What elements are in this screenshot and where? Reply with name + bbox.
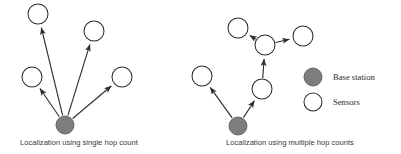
sensor-node-m5 bbox=[192, 66, 212, 86]
link-bs2-to-m4 bbox=[243, 101, 254, 118]
panel-caption-multi-hop: Localization using multiple hop counts bbox=[226, 138, 354, 147]
nodes-layer bbox=[22, 4, 313, 135]
figure-container: Localization using single hop countLocal… bbox=[0, 0, 401, 154]
link-hub-to-m1 bbox=[250, 35, 256, 39]
sensor-node-s2 bbox=[84, 21, 104, 41]
sensor-node-m4 bbox=[252, 79, 272, 99]
legend-marker-sensors bbox=[304, 93, 322, 111]
panel-caption-single-hop: Localization using single hop count bbox=[20, 138, 139, 147]
links-layer bbox=[40, 28, 289, 119]
sensor-node-s3 bbox=[22, 67, 42, 87]
sensor-node-m1 bbox=[228, 18, 248, 38]
link-bs-to-s3 bbox=[40, 89, 59, 117]
sensor-node-s1 bbox=[28, 4, 48, 24]
captions-layer: Localization using single hop countLocal… bbox=[20, 138, 354, 147]
network-topology-figure: Localization using single hop countLocal… bbox=[0, 0, 401, 154]
base-station-node-bs2 bbox=[229, 117, 247, 135]
link-bs-to-s2 bbox=[68, 44, 90, 115]
link-bs-to-s4 bbox=[73, 86, 112, 119]
link-m4-to-hub bbox=[263, 59, 264, 78]
legend-layer: Base stationSensors bbox=[304, 68, 375, 111]
legend-label-base-station: Base station bbox=[333, 72, 375, 82]
legend-marker-base-station bbox=[304, 68, 322, 86]
sensor-node-hub bbox=[255, 35, 275, 55]
sensor-node-s4 bbox=[112, 67, 132, 87]
base-station-node-bs bbox=[56, 116, 74, 134]
link-bs-to-s1 bbox=[41, 28, 62, 116]
sensor-node-m3 bbox=[293, 26, 313, 46]
legend-label-sensors: Sensors bbox=[333, 97, 360, 107]
link-bs2-to-m5 bbox=[210, 87, 232, 118]
link-hub-to-m3 bbox=[276, 39, 290, 42]
